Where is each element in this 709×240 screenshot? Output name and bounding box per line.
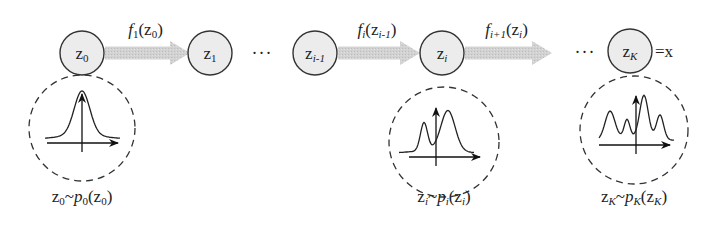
distribution-label-pi: zi~pi(zi) [417,187,470,207]
distribution-circles [29,75,688,197]
node-label-zK: zK [623,42,638,62]
transform-label-f1: f1(z0) [128,20,163,40]
distribution-p0 [29,75,135,181]
transform-arrow-f1 [105,41,190,65]
distribution-label-pK: zK~pK(zK) [601,187,667,207]
dashed-circle [389,87,499,197]
ellipsis-dots-2: ··· [575,42,596,63]
node-label-z1: z1 [203,44,216,64]
node-label-zi: zi [437,44,448,64]
node-label-z0: z0 [75,44,88,64]
distribution-pi [389,87,499,197]
distribution-label-p0: z0~p0(z0) [52,187,113,207]
transform-arrow-fi+1 [465,41,552,65]
ellipsis-dots-1: ··· [252,43,273,64]
distribution-pK [580,76,688,184]
transform-label-fi+1: fi+1(zi) [485,20,528,40]
equals-x-label: =x [655,42,673,62]
dashed-circle [580,76,688,184]
transform-label-fi: fi(zi-1) [358,20,397,40]
node-label-zi-1: zi-1 [305,44,325,64]
transform-arrow-fi [338,41,420,65]
